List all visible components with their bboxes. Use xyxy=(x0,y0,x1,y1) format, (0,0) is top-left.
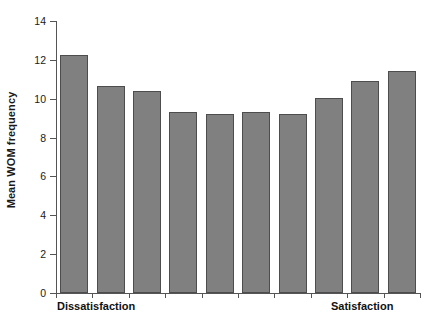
x-axis-tick xyxy=(56,293,57,298)
y-axis-tick xyxy=(50,254,56,255)
bar xyxy=(133,91,161,293)
y-axis-tick xyxy=(50,60,56,61)
y-axis-label-text: Mean WOM frequency xyxy=(5,92,17,209)
x-axis-tick xyxy=(347,293,348,298)
y-axis-tick-label: 0 xyxy=(22,287,46,299)
y-axis-tick xyxy=(50,99,56,100)
y-axis-tick-label: 4 xyxy=(22,209,46,221)
x-axis-left-label: Dissatisfaction xyxy=(57,300,135,312)
y-axis-label: Mean WOM frequency xyxy=(0,0,22,300)
x-axis-tick xyxy=(311,293,312,298)
x-axis-tick xyxy=(92,293,93,298)
bar xyxy=(60,55,88,293)
bar xyxy=(388,71,416,293)
bar xyxy=(242,112,270,293)
y-axis-tick-label: 6 xyxy=(22,170,46,182)
x-axis-tick xyxy=(129,293,130,298)
y-axis-tick xyxy=(50,176,56,177)
y-axis-tick-label: 12 xyxy=(22,54,46,66)
x-axis-tick xyxy=(202,293,203,298)
bar xyxy=(97,86,125,293)
x-axis-tick xyxy=(274,293,275,298)
x-axis-right-label: Satisfaction xyxy=(331,300,393,312)
y-axis-tick-label: 8 xyxy=(22,132,46,144)
y-axis-tick-label: 14 xyxy=(22,15,46,27)
bar xyxy=(351,81,379,293)
y-axis-line xyxy=(56,21,57,293)
x-axis-tick xyxy=(165,293,166,298)
bar xyxy=(206,114,234,293)
y-axis-tick xyxy=(50,21,56,22)
bar xyxy=(279,114,307,293)
x-axis-tick xyxy=(420,293,421,298)
y-axis-tick xyxy=(50,138,56,139)
bar xyxy=(169,112,197,293)
x-axis-tick xyxy=(384,293,385,298)
bar-chart: Mean WOM frequency 02468101214 Dissatisf… xyxy=(0,0,434,329)
x-axis-tick xyxy=(238,293,239,298)
bar xyxy=(315,98,343,293)
y-axis-tick-label: 10 xyxy=(22,93,46,105)
y-axis-tick-label: 2 xyxy=(22,248,46,260)
y-axis-tick xyxy=(50,215,56,216)
